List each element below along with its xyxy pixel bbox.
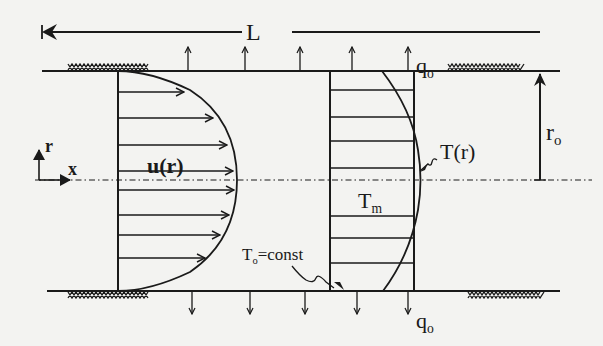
heat-flux-bottom-label: qo [416,310,434,335]
mean-temperature-label: Tm [358,190,382,215]
wall-temp-leader [292,266,334,288]
length-dimension [42,24,540,40]
velocity-profile [118,71,237,291]
wall-hatching [68,64,544,298]
wall-temperature-label: To=const [242,246,303,266]
diagram-canvas [0,0,603,346]
radius-label: ro [546,120,561,148]
hatching-top-right [448,64,524,70]
heat-flux-arrows-bottom [192,292,408,314]
velocity-profile-label: u(r) [147,155,184,177]
hatching-top-left [68,64,148,70]
length-label: L [246,20,261,44]
temperature-profile [292,71,437,291]
coordinate-axes [39,150,70,180]
axis-r-label: r [45,137,53,155]
wall-temp-leader-arrowhead-icon [334,282,344,290]
hatching-bottom-left [68,292,148,298]
axis-x-label: x [68,160,77,178]
heat-flux-arrows-top [188,47,408,70]
hatching-bottom-right [468,292,544,298]
temp-box-lines [330,90,414,263]
temperature-profile-label: T(r) [440,141,475,163]
heat-flux-top-label: qo [416,55,434,80]
pipe-flow-diagram: L qo qo ro u(r) T(r) Tm To=const r x [0,0,603,346]
radius-dimension [534,74,546,180]
